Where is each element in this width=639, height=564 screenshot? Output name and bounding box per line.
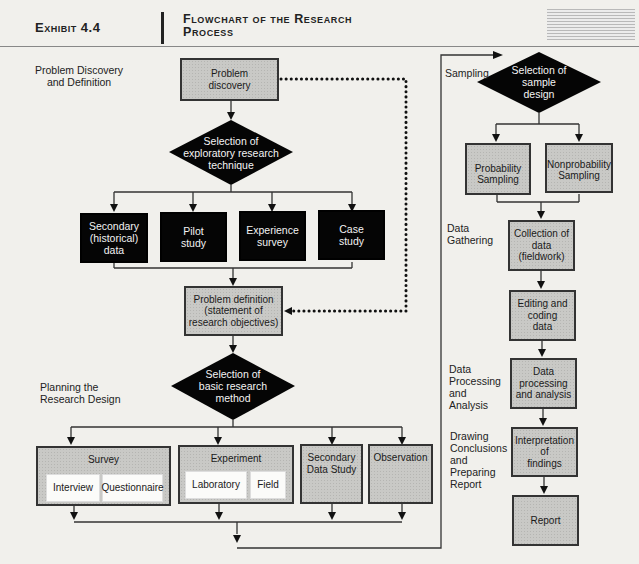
node-method-decision: Selection of basic research method bbox=[171, 359, 295, 413]
stage-label-line: and bbox=[449, 387, 501, 399]
stage-label-planning: Planning the Research Design bbox=[40, 381, 121, 405]
stage-label-line: Gathering bbox=[447, 234, 493, 246]
node-text: Sampling bbox=[475, 174, 522, 186]
node-text: sample bbox=[512, 76, 567, 88]
node-text: (historical) bbox=[89, 232, 139, 244]
node-text: exploratory research bbox=[183, 147, 279, 159]
node-text: technique bbox=[183, 159, 279, 171]
node-secondary-historical-data: Secondary (historical) data bbox=[80, 213, 148, 263]
node-text: study bbox=[181, 237, 206, 249]
node-text: Secondary bbox=[307, 452, 356, 464]
node-survey: Survey Interview Questionnaire bbox=[36, 446, 171, 506]
node-survey-interview: Interview bbox=[46, 474, 100, 502]
node-text: study bbox=[339, 235, 364, 247]
node-text: coding bbox=[517, 310, 567, 322]
node-data-processing: Data processing and analysis bbox=[510, 358, 577, 409]
stage-label-line: Data bbox=[449, 363, 501, 375]
node-text: Problem definition bbox=[189, 294, 278, 306]
node-report: Report bbox=[512, 495, 579, 546]
node-text: of bbox=[515, 446, 574, 458]
node-experiment: Experiment Laboratory Field bbox=[178, 445, 294, 504]
stage-label-line: Planning the bbox=[40, 381, 121, 393]
node-text: Secondary bbox=[89, 220, 139, 232]
node-text: basic research bbox=[199, 380, 267, 392]
stage-label-line: Processing bbox=[449, 375, 501, 387]
stage-label-data-processing: Data Processing and Analysis bbox=[449, 363, 501, 411]
stage-label-line: Analysis bbox=[449, 399, 501, 411]
node-text: Editing and bbox=[517, 298, 567, 310]
node-text: Selection of bbox=[199, 368, 267, 380]
stage-label-line: Drawing bbox=[450, 430, 507, 442]
stage-label-data-gathering: Data Gathering bbox=[447, 222, 493, 246]
node-interpretation: Interpretation of findings bbox=[511, 427, 578, 477]
node-collection-of-data: Collection of data (fieldwork) bbox=[508, 220, 575, 271]
stage-label-line: Report bbox=[450, 478, 507, 490]
node-editing-coding: Editing and coding data bbox=[509, 290, 576, 341]
node-text: Data bbox=[516, 366, 572, 378]
node-text: Nonprobability bbox=[547, 159, 611, 171]
node-text: research objectives) bbox=[189, 317, 278, 329]
node-text: findings bbox=[515, 458, 574, 470]
node-text: Experience bbox=[246, 224, 299, 236]
node-text: design bbox=[512, 88, 567, 100]
node-problem-discovery: Problem discovery bbox=[180, 58, 279, 101]
stage-label-problem-discovery: Problem Discovery and Definition bbox=[35, 64, 123, 88]
node-text: Observation bbox=[374, 452, 428, 464]
node-text: Data Study bbox=[307, 464, 356, 476]
node-text: Report bbox=[530, 515, 560, 527]
node-text: (statement of bbox=[189, 305, 278, 317]
node-text: Experiment bbox=[211, 453, 262, 465]
node-case-study: Case study bbox=[318, 210, 385, 260]
node-text: Case bbox=[339, 223, 364, 235]
node-exploratory-decision: Selection of exploratory research techni… bbox=[169, 126, 293, 180]
node-experience-survey: Experience survey bbox=[239, 211, 306, 261]
node-observation: Observation bbox=[368, 444, 433, 504]
node-text: Selection of bbox=[183, 135, 279, 147]
node-experiment-laboratory: Laboratory bbox=[185, 471, 247, 499]
node-text: processing bbox=[516, 378, 572, 390]
node-problem-definition: Problem definition (statement of researc… bbox=[184, 286, 283, 336]
stage-label-line: and bbox=[450, 454, 507, 466]
node-text: discovery bbox=[208, 80, 250, 92]
node-text: Selection of bbox=[512, 64, 567, 76]
stage-label-line: Research Design bbox=[40, 393, 121, 405]
stage-label-conclusions: Drawing Conclusions and Preparing Report bbox=[450, 430, 507, 490]
node-text: survey bbox=[246, 236, 299, 248]
node-text: Sampling bbox=[547, 170, 611, 182]
node-text: and analysis bbox=[516, 389, 572, 401]
node-text: data bbox=[517, 321, 567, 333]
node-secondary-data-study: Secondary Data Study bbox=[300, 444, 363, 504]
node-text: Collection of bbox=[514, 228, 569, 240]
node-text: Pilot bbox=[181, 225, 206, 237]
node-text: data bbox=[514, 240, 569, 252]
node-experiment-field: Field bbox=[250, 471, 286, 499]
node-text: Problem bbox=[208, 68, 250, 80]
node-sample-decision: Selection of sample design bbox=[477, 56, 601, 108]
stage-label-line: Data bbox=[447, 222, 493, 234]
stage-label-line: and Definition bbox=[35, 76, 123, 88]
node-text: (fieldwork) bbox=[514, 251, 569, 263]
stage-label-line: Preparing bbox=[450, 466, 507, 478]
node-text: Survey bbox=[88, 454, 119, 466]
node-text: Interpretation bbox=[515, 435, 574, 447]
node-text: method bbox=[199, 392, 267, 404]
stage-label-line: Problem Discovery bbox=[35, 64, 123, 76]
stage-label-line: Conclusions bbox=[450, 442, 507, 454]
node-survey-questionnaire: Questionnaire bbox=[102, 474, 163, 502]
node-text: data bbox=[89, 244, 139, 256]
node-nonprobability-sampling: Nonprobability Sampling bbox=[545, 143, 613, 193]
node-pilot-study: Pilot study bbox=[160, 212, 227, 262]
node-probability-sampling: Probability Sampling bbox=[465, 143, 531, 195]
node-text: Probability bbox=[475, 163, 522, 175]
